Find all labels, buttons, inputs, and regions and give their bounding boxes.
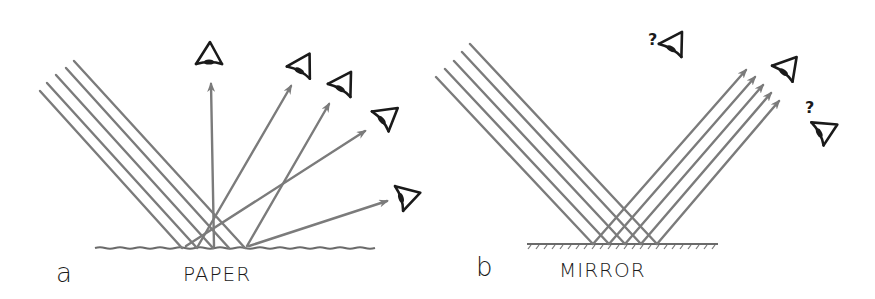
reflection-diagram (0, 0, 875, 299)
incident-rays-b (436, 44, 657, 244)
uncertain-observer-mark: ? (805, 98, 814, 117)
panel-b-specular (436, 25, 843, 249)
surface-label-paper: PAPER (183, 262, 251, 286)
eye-icon (287, 47, 321, 79)
eye-icon (659, 25, 693, 58)
eye-icon (811, 112, 843, 146)
surface-label-mirror: MIRROR (559, 258, 646, 282)
eye-icon (196, 42, 222, 65)
reflected-rays-a (186, 84, 387, 246)
eye-icon (394, 179, 424, 211)
uncertain-observer-mark: ? (648, 30, 657, 49)
mirror-hatching (528, 245, 715, 249)
paper-surface (95, 247, 375, 249)
reflected-rays-b (593, 70, 779, 244)
panel-letter-a: a (56, 258, 72, 288)
panel-a-diffuse (40, 42, 424, 249)
eye-icon (371, 97, 405, 131)
panel-letter-b: b (476, 252, 493, 282)
eye-icon (328, 65, 362, 98)
eye-icon (772, 48, 806, 82)
